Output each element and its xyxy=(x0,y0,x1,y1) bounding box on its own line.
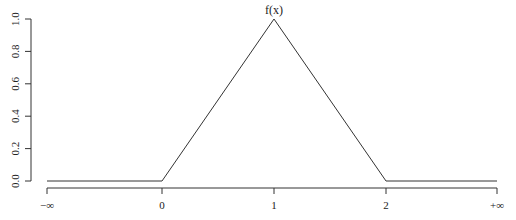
y-tick-label: 0.4 xyxy=(9,109,21,123)
plot-area xyxy=(47,19,497,181)
x-tick-label: 1 xyxy=(271,199,277,211)
y-tick-label: 0.8 xyxy=(9,44,21,58)
x-tick-label: 0 xyxy=(159,199,165,211)
y-tick-label: 0.0 xyxy=(9,174,21,188)
chart: 0.00.20.40.60.81.0 −∞012+∞ f(x) xyxy=(0,0,516,220)
triangular-function-line xyxy=(47,19,497,181)
y-tick-label: 0.2 xyxy=(9,142,21,156)
chart-title: f(x) xyxy=(265,3,283,17)
x-tick-label: 2 xyxy=(383,199,389,211)
y-axis: 0.00.20.40.60.81.0 xyxy=(9,12,31,188)
x-tick-label: +∞ xyxy=(490,199,504,211)
x-tick-label: −∞ xyxy=(40,199,54,211)
y-tick-label: 1.0 xyxy=(9,12,21,26)
x-axis: −∞012+∞ xyxy=(40,188,504,211)
y-tick-label: 0.6 xyxy=(9,76,21,90)
